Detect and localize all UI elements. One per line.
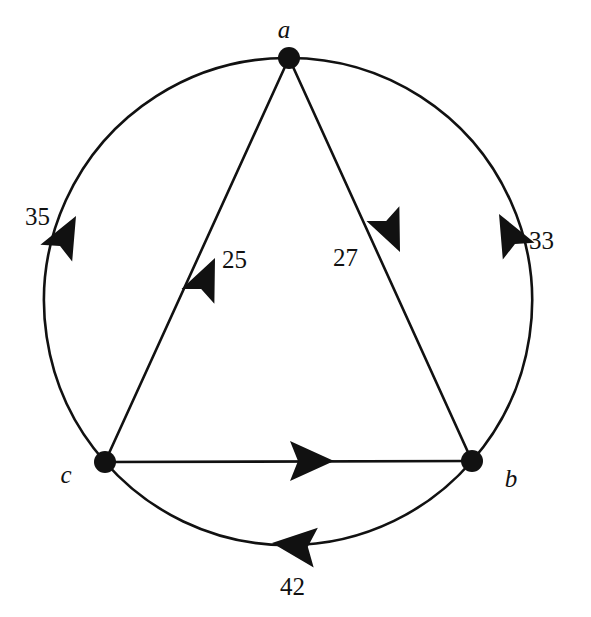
node-label-a: a <box>278 16 291 43</box>
nodes-group <box>94 47 483 473</box>
node-labels-group: a b c <box>60 16 517 492</box>
edge-weight-27: 27 <box>333 244 358 271</box>
arc-edge-c-a[interactable] <box>44 58 289 462</box>
graph-canvas: a b c 25 27 35 33 42 <box>0 0 591 617</box>
node-label-b: b <box>505 465 518 492</box>
arc-edge-b-c[interactable] <box>105 461 472 545</box>
chord-edge-c-b[interactable] <box>105 461 472 462</box>
node-a[interactable] <box>278 47 300 69</box>
edge-weight-42: 42 <box>280 573 305 600</box>
arc-edge-b-a[interactable] <box>289 58 532 461</box>
node-label-c: c <box>60 461 71 488</box>
node-c[interactable] <box>94 451 116 473</box>
arrow-head-edge-a-b-inner <box>366 206 416 259</box>
edge-weight-25: 25 <box>222 246 247 273</box>
edge-weight-33: 33 <box>529 227 554 254</box>
inner-triangle-group <box>105 58 472 462</box>
edge-weight-35: 35 <box>25 203 50 230</box>
outer-circle-group <box>44 58 532 545</box>
node-b[interactable] <box>461 450 483 472</box>
chord-edge-a-b[interactable] <box>289 58 472 461</box>
chord-edge-c-a[interactable] <box>105 58 289 462</box>
graph-diagram: a b c 25 27 35 33 42 <box>0 0 591 617</box>
arrowheads-group <box>40 206 534 568</box>
